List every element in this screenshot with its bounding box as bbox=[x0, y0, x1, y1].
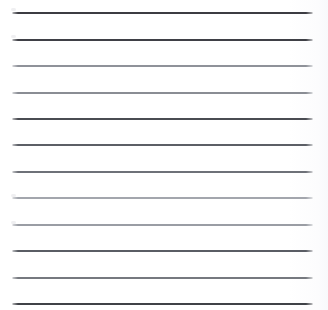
rule-line bbox=[12, 12, 313, 14]
rule-line-ink bbox=[12, 250, 313, 252]
rule-line bbox=[12, 197, 313, 199]
rule-line bbox=[12, 144, 313, 146]
rule-line-ink bbox=[12, 171, 313, 173]
rule-line-ink bbox=[12, 92, 313, 94]
rule-line bbox=[12, 171, 313, 173]
lined-paper-sheet bbox=[0, 0, 328, 310]
rule-line-ink bbox=[12, 39, 313, 41]
rule-line-ink bbox=[12, 12, 313, 14]
paper-speck bbox=[11, 221, 16, 224]
rule-line-ink bbox=[12, 144, 313, 146]
rule-line-ink bbox=[12, 224, 313, 226]
rule-line bbox=[12, 277, 313, 279]
paper-speck bbox=[11, 8, 16, 11]
paper-speck bbox=[11, 35, 16, 38]
rule-line-ink bbox=[12, 65, 313, 67]
rule-line bbox=[12, 39, 313, 41]
rule-line bbox=[12, 250, 313, 252]
rule-line bbox=[12, 118, 313, 120]
paper-speck bbox=[11, 194, 16, 197]
paper-texture bbox=[0, 0, 328, 310]
rule-line bbox=[12, 303, 313, 305]
rule-line bbox=[12, 65, 313, 67]
rule-line bbox=[12, 224, 313, 226]
rule-line bbox=[12, 92, 313, 94]
rule-line-ink bbox=[12, 277, 313, 279]
rule-line-ink bbox=[12, 118, 313, 120]
rule-line-ink bbox=[12, 197, 313, 199]
rule-line-ink bbox=[12, 303, 313, 305]
